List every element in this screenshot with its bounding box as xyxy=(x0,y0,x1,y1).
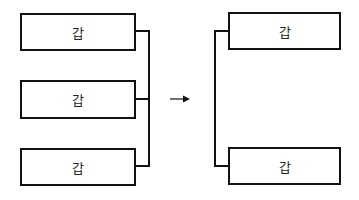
box-label: 갑 xyxy=(72,23,84,42)
left-box-1: 갑 xyxy=(20,13,136,51)
left-bracket xyxy=(135,31,149,166)
left-box-2: 갑 xyxy=(20,80,136,119)
right-box-2: 갑 xyxy=(228,147,341,185)
arrow-icon xyxy=(183,96,190,103)
box-label: 갑 xyxy=(72,90,84,109)
right-box-1: 갑 xyxy=(228,12,341,50)
box-label: 갑 xyxy=(279,22,291,41)
box-label: 갑 xyxy=(72,158,84,177)
box-label: 갑 xyxy=(279,157,291,176)
right-bracket xyxy=(215,31,229,166)
left-box-3: 갑 xyxy=(20,148,136,186)
